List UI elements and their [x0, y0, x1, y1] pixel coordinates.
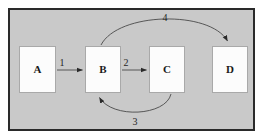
node-c-label: C [163, 64, 171, 75]
edge-1-label: 1 [60, 58, 65, 68]
node-c[interactable]: C [149, 46, 185, 93]
node-b[interactable]: B [85, 46, 121, 93]
node-d-label: D [226, 64, 234, 75]
edge-3 [100, 94, 172, 112]
diagram-canvas: A B C D 1 2 3 4 [0, 0, 263, 139]
edge-4-label: 4 [163, 13, 168, 23]
node-a[interactable]: A [19, 46, 56, 93]
node-d[interactable]: D [212, 46, 248, 93]
node-a-label: A [33, 64, 41, 75]
edge-2-label: 2 [124, 58, 129, 68]
node-b-label: B [99, 64, 107, 75]
edge-3-label: 3 [133, 117, 138, 127]
